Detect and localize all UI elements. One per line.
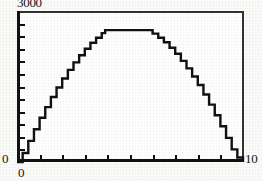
x-axis-max-label: 10 [245, 152, 257, 165]
x-axis-min-label: 0 [18, 166, 25, 179]
curve-path [17, 30, 243, 162]
y-axis-min-label: 0 [2, 152, 9, 165]
y-axis-max-label: 3000 [17, 0, 42, 9]
data-curve [17, 11, 243, 162]
chart-figure: 3000 0 0 10 [0, 0, 262, 181]
